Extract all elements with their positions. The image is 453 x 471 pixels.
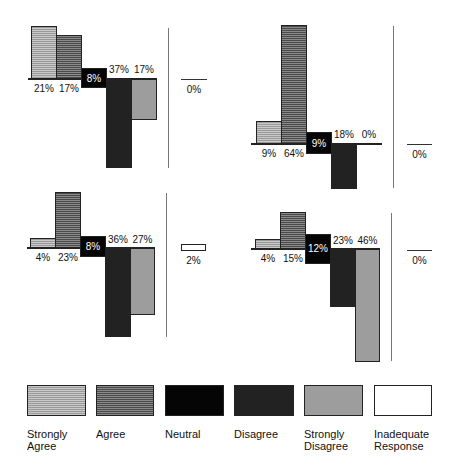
- bar-inadequate-response: [181, 79, 207, 80]
- inadequate-response-value: 0%: [181, 84, 207, 95]
- legend-swatch-neutral: [165, 385, 224, 416]
- bar-strongly-agree: [31, 26, 57, 80]
- neutral-value: 12%: [305, 243, 331, 254]
- strongly-agree-value: 4%: [255, 253, 281, 264]
- bar-strongly-agree: [256, 121, 282, 145]
- divider: [168, 28, 169, 168]
- legend-label-disagree: Disagree: [234, 428, 278, 440]
- legend-label-neutral: Neutral: [165, 428, 200, 440]
- agree-value: 15%: [280, 253, 306, 264]
- legend-label-strongly-agree: Strongly Agree: [27, 428, 67, 452]
- legend-label-agree: Agree: [96, 428, 125, 440]
- legend-swatch-strongly-agree: [27, 385, 86, 416]
- legend-swatch-agree: [96, 385, 154, 416]
- bar-agree: [281, 25, 307, 145]
- divider: [393, 26, 394, 188]
- strongly-agree-value: 21%: [31, 83, 57, 94]
- disagree-value: 37%: [106, 64, 132, 75]
- legend-label-strongly-disagree: Strongly Disagree: [304, 428, 348, 452]
- bar-inadequate-response: [407, 144, 432, 145]
- bar-disagree: [330, 249, 356, 307]
- bar-strongly-disagree: [130, 248, 155, 315]
- bar-inadequate-response: [181, 244, 206, 251]
- bar-agree: [56, 35, 82, 80]
- disagree-value: 18%: [331, 129, 357, 140]
- strongly-disagree-value: 0%: [356, 129, 382, 140]
- agree-value: 23%: [55, 252, 81, 263]
- disagree-value: 23%: [330, 235, 356, 246]
- agree-value: 17%: [56, 83, 82, 94]
- legend-swatch-inadequate-response: [374, 385, 432, 416]
- bar-disagree: [106, 79, 132, 168]
- bar-inadequate-response: [407, 250, 432, 251]
- strongly-disagree-value: 46%: [355, 235, 380, 246]
- neutral-value: 8%: [81, 73, 107, 84]
- neutral-value: 9%: [306, 138, 332, 149]
- inadequate-response-value: 0%: [407, 149, 432, 160]
- divider: [166, 193, 167, 337]
- strongly-agree-value: 4%: [30, 252, 56, 263]
- legend-swatch-disagree: [234, 385, 294, 416]
- inadequate-response-value: 0%: [407, 255, 432, 266]
- bar-disagree: [331, 144, 357, 189]
- agree-value: 64%: [281, 148, 307, 159]
- bar-agree: [280, 212, 306, 249]
- strongly-disagree-value: 27%: [130, 234, 155, 245]
- inadequate-response-value: 2%: [181, 255, 206, 266]
- strongly-agree-value: 9%: [256, 148, 282, 159]
- bar-agree: [55, 192, 81, 248]
- disagree-value: 36%: [105, 234, 131, 245]
- bar-strongly-disagree: [355, 249, 380, 362]
- bar-disagree: [105, 248, 131, 337]
- legend-label-inadequate-response: Inadequate Response: [374, 428, 429, 452]
- strongly-disagree-value: 17%: [131, 64, 157, 75]
- legend-swatch-strongly-disagree: [304, 385, 363, 416]
- divider: [391, 213, 392, 361]
- bar-strongly-disagree: [131, 79, 157, 120]
- neutral-value: 8%: [80, 241, 106, 252]
